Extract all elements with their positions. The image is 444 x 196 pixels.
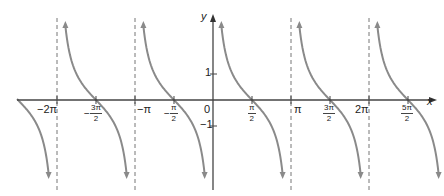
arrow-down-icon xyxy=(124,172,130,179)
y-axis-arrow-icon xyxy=(210,14,216,22)
arrow-down-icon xyxy=(280,172,286,179)
tick-label-neg-3pi-over-2: − 3π 2 xyxy=(90,104,102,123)
arrow-up-icon xyxy=(62,21,68,28)
cotangent-graph xyxy=(0,0,444,196)
y-axis-label: y xyxy=(201,11,207,22)
tick-label-2pi: 2π xyxy=(355,104,369,115)
tick-label-y-neg-1: −1 xyxy=(200,119,213,130)
tick-label-neg-2pi: −2π xyxy=(37,104,57,115)
arrow-down-icon xyxy=(46,172,52,179)
arrow-down-icon xyxy=(202,172,208,179)
arrow-up-icon xyxy=(140,21,146,28)
arrow-up-icon xyxy=(296,21,302,28)
x-axis-label: x xyxy=(427,96,433,107)
arrow-down-icon xyxy=(436,172,442,179)
tick-label-neg-pi-over-2: − π 2 xyxy=(170,104,178,123)
tick-label-y-1: 1 xyxy=(205,67,211,78)
tick-label-3pi-over-2: 3π 2 xyxy=(323,104,335,123)
tick-label-5pi-over-2: 5π 2 xyxy=(401,104,413,123)
arrow-up-icon xyxy=(374,21,380,28)
tick-label-pi-over-2: π 2 xyxy=(248,104,256,123)
tick-label-zero: 0 xyxy=(204,104,210,115)
arrow-down-icon xyxy=(358,172,364,179)
tick-label-neg-pi: −π xyxy=(137,104,151,115)
tick-label-pi: π xyxy=(294,104,302,115)
arrow-up-icon xyxy=(218,21,224,28)
